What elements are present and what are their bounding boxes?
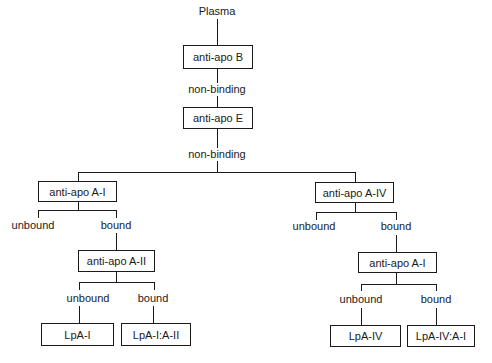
branch-line bbox=[361, 284, 437, 285]
connector bbox=[116, 272, 117, 282]
box-label: anti-apo A-I bbox=[49, 186, 105, 198]
connector bbox=[116, 210, 117, 218]
box-label: LpA-IV:A-I bbox=[416, 330, 466, 342]
connector bbox=[396, 235, 397, 252]
box-lpa-iv: LpA-IV bbox=[330, 325, 401, 347]
label-unbound: unbound bbox=[340, 293, 383, 305]
box-label: anti-apo A-IV bbox=[323, 187, 387, 199]
connector bbox=[217, 69, 218, 83]
box-anti-apo-a-i-right: anti-apo A-I bbox=[358, 252, 437, 273]
connector bbox=[361, 308, 362, 325]
label-unbound: unbound bbox=[67, 292, 110, 304]
connector bbox=[79, 282, 80, 290]
box-lpa-iv-a-i: LpA-IV:A-I bbox=[407, 325, 475, 347]
box-anti-apo-e: anti-apo E bbox=[183, 107, 253, 129]
connector bbox=[217, 161, 218, 172]
connector bbox=[396, 212, 397, 220]
connector bbox=[217, 96, 218, 107]
label-unbound: unbound bbox=[12, 219, 55, 231]
box-anti-apo-a-iv: anti-apo A-IV bbox=[315, 182, 394, 203]
split-line bbox=[78, 172, 356, 173]
branch-line bbox=[316, 212, 396, 213]
connector bbox=[154, 282, 155, 290]
connector bbox=[361, 284, 362, 291]
box-label: anti-apo E bbox=[193, 112, 243, 124]
box-anti-apo-a-ii: anti-apo A-II bbox=[78, 250, 155, 272]
box-label: LpA-I bbox=[64, 329, 90, 341]
box-lpa-i: LpA-I bbox=[41, 323, 114, 346]
branch-line bbox=[79, 282, 155, 283]
connector bbox=[116, 233, 117, 250]
label-non-binding-2: non-binding bbox=[188, 148, 246, 160]
connector bbox=[153, 306, 154, 323]
box-anti-apo-b: anti-apo B bbox=[183, 45, 253, 69]
connector bbox=[217, 19, 218, 45]
connector bbox=[316, 212, 317, 220]
box-lpa-i-a-ii: LpA-I:A-II bbox=[121, 323, 191, 346]
connector bbox=[38, 210, 39, 218]
box-label: anti-apo B bbox=[193, 51, 243, 63]
connector bbox=[79, 306, 80, 323]
connector bbox=[78, 172, 79, 181]
label-bound: bound bbox=[101, 219, 132, 231]
label-unbound: unbound bbox=[293, 220, 336, 232]
label-bound: bound bbox=[381, 220, 412, 232]
box-anti-apo-a-i: anti-apo A-I bbox=[38, 181, 117, 202]
root-label-plasma: Plasma bbox=[199, 5, 236, 17]
box-label: LpA-IV bbox=[349, 330, 383, 342]
connector bbox=[355, 172, 356, 182]
connector bbox=[78, 202, 79, 210]
connector bbox=[217, 129, 218, 148]
box-label: LpA-I:A-II bbox=[133, 329, 179, 341]
branch-line bbox=[38, 210, 117, 211]
connector bbox=[436, 284, 437, 291]
connector bbox=[396, 273, 397, 284]
box-label: anti-apo A-II bbox=[87, 255, 146, 267]
label-bound: bound bbox=[138, 292, 169, 304]
box-label: anti-apo A-I bbox=[369, 257, 425, 269]
label-non-binding-1: non-binding bbox=[188, 83, 246, 95]
connector bbox=[436, 308, 437, 325]
label-bound: bound bbox=[421, 293, 452, 305]
connector bbox=[355, 203, 356, 212]
